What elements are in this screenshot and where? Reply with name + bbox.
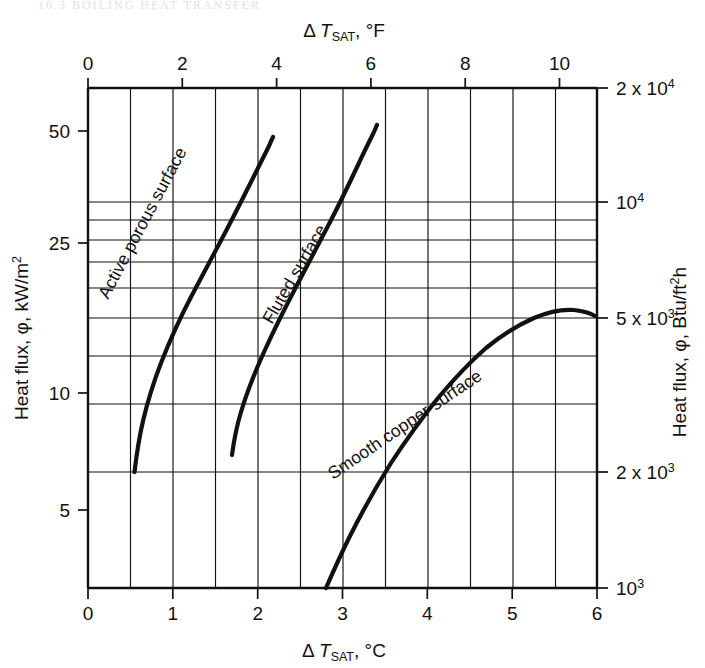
top-tick-label: 8 (460, 53, 471, 74)
right-axis-title: Heat flux, φ, Btu/ft2h (668, 267, 690, 437)
bottom-axis-subscript: SAT (331, 650, 355, 664)
top-axis-units: , °F (355, 20, 385, 41)
right-tick-label: 103 (616, 577, 644, 599)
bottom-tick-label: 3 (337, 603, 348, 624)
right-tick-label: 2 x 103 (616, 461, 675, 483)
right-tick-label: 5 x 103 (616, 307, 675, 329)
bottom-axis-units: , °C (354, 640, 386, 661)
right-tick-label: 104 (616, 191, 644, 213)
top-axis-ticks (88, 78, 560, 88)
top-tick-label: 6 (366, 53, 377, 74)
right-tick-label: 2 x 104 (616, 77, 675, 99)
page-header-artifact: 10.3 BOILING HEAT TRANSFER (38, 0, 261, 13)
left-axis-title-symbol: φ (11, 322, 32, 334)
top-axis-delta: Δ (303, 20, 320, 41)
top-tick-label: 10 (549, 53, 570, 74)
top-tick-label: 4 (271, 53, 282, 74)
left-tick-label: 25 (49, 233, 70, 254)
left-axis-title-exponent: 2 (10, 256, 24, 263)
right-axis-title-suffix: , Btu/ft (669, 284, 690, 340)
curve-labels: Active porous surface Fluted surface Smo… (94, 144, 485, 483)
bottom-tick-label: 5 (507, 603, 518, 624)
top-axis-title: Δ TSAT, °F (303, 20, 385, 44)
bottom-tick-label: 4 (422, 603, 433, 624)
left-axis-title-prefix: Heat flux, (11, 334, 32, 420)
right-axis-title-tail: h (669, 267, 690, 278)
bottom-tick-label: 0 (83, 603, 94, 624)
top-tick-labels: 0 2 4 6 8 10 (83, 53, 570, 74)
vertical-gridlines (131, 88, 556, 588)
svg-text:Heat flux, φ, kW/m2: Heat flux, φ, kW/m2 (10, 256, 32, 420)
bottom-axis-title: Δ TSAT, °C (302, 640, 386, 664)
curve-label-fluted: Fluted surface (258, 221, 331, 327)
chart-svg: 0 2 4 6 8 10 Δ TSAT, °F 0 1 2 3 4 5 6 Δ … (0, 0, 705, 668)
top-tick-label: 2 (177, 53, 188, 74)
svg-text:Heat flux, φ, Btu/ft2h: Heat flux, φ, Btu/ft2h (668, 267, 690, 437)
bottom-axis-delta: Δ (302, 640, 319, 661)
left-axis-ticks (78, 131, 88, 510)
left-tick-label: 5 (59, 500, 70, 521)
left-tick-labels: 50 25 10 5 (49, 121, 70, 521)
right-axis-title-symbol: φ (669, 339, 690, 351)
left-tick-label: 10 (49, 383, 70, 404)
svg-text:Δ TSAT, °C: Δ TSAT, °C (302, 640, 386, 664)
right-axis-title-exponent: 2 (668, 277, 682, 284)
left-tick-label: 50 (49, 121, 70, 142)
boiling-heat-flux-figure: 10.3 BOILING HEAT TRANSFER (0, 0, 705, 668)
top-tick-label: 0 (83, 53, 94, 74)
curve-label-active-porous: Active porous surface (94, 144, 191, 302)
bottom-tick-label: 2 (252, 603, 263, 624)
bottom-axis-ticks (88, 588, 597, 599)
bottom-tick-labels: 0 1 2 3 4 5 6 (83, 603, 603, 624)
top-axis-subscript: SAT (332, 30, 356, 44)
left-axis-title: Heat flux, φ, kW/m2 (10, 256, 32, 420)
bottom-tick-label: 1 (168, 603, 179, 624)
curve-label-smooth-copper: Smooth copper surface (324, 366, 485, 484)
right-axis-title-prefix: Heat flux, (669, 352, 690, 438)
svg-text:Δ TSAT, °F: Δ TSAT, °F (303, 20, 385, 44)
left-axis-title-suffix: , kW/m (11, 263, 32, 322)
bottom-tick-label: 6 (592, 603, 603, 624)
right-axis-ticks (597, 88, 608, 588)
right-tick-labels: 2 x 104 104 5 x 103 2 x 103 103 (616, 77, 675, 599)
